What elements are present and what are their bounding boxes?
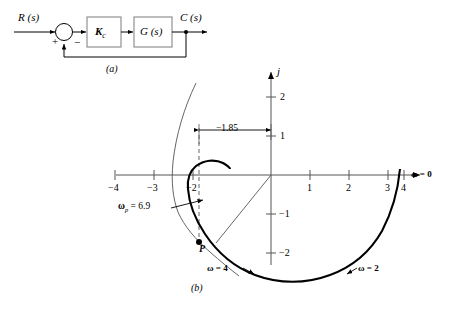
- real-tick-pos-1: 1: [307, 183, 312, 193]
- tangent-ray: [216, 175, 271, 243]
- omega-p-annotation: ωp = 6.9: [118, 202, 150, 213]
- omega-2-label: ω = 2: [358, 264, 379, 273]
- real-tick-neg-2: −2: [186, 183, 197, 193]
- omega-p-symbol: ω: [118, 201, 125, 211]
- block-diagram-panel: [14, 17, 207, 57]
- imag-tick-pos-2: 2: [280, 92, 285, 102]
- omega-4-label: ω = 4: [207, 264, 228, 273]
- input-label: R (s): [18, 12, 39, 23]
- imag-tick-pos-1: 1: [280, 131, 285, 141]
- nyquist-plot-panel: [115, 72, 420, 282]
- imag-tick-neg-2: −2: [279, 248, 290, 258]
- imaginary-axis-label: j: [277, 66, 280, 77]
- controller-block-label: Kc: [95, 26, 106, 40]
- omega-2-leader-arrow: [347, 268, 357, 274]
- point-p-label: P: [199, 244, 205, 254]
- m-circle-arc: [172, 83, 239, 276]
- dimension-label-1-85: −1.85: [216, 124, 238, 134]
- summing-plus-sign: +: [52, 36, 58, 47]
- real-tick-neg-3: −3: [147, 183, 158, 193]
- controller-block-subscript: c: [102, 31, 105, 40]
- output-label: C (s): [180, 12, 202, 23]
- figure-container: R (s) C (s) Kc G (s) + − (a) j ω = 0 −4 …: [0, 0, 452, 313]
- real-tick-pos-4: 4: [401, 183, 406, 193]
- real-tick-pos-2: 2: [346, 183, 351, 193]
- plant-block-label: G (s): [140, 26, 162, 37]
- omega-zero-label: ω = 0: [411, 170, 432, 179]
- caption-b: (b): [191, 283, 203, 293]
- omega-p-value: = 6.9: [128, 201, 150, 211]
- caption-a: (a): [106, 64, 118, 74]
- real-tick-neg-4: −4: [108, 183, 119, 193]
- real-tick-pos-3: 3: [385, 183, 390, 193]
- summing-minus-sign: −: [74, 37, 80, 48]
- imag-tick-neg-1: −1: [279, 209, 290, 219]
